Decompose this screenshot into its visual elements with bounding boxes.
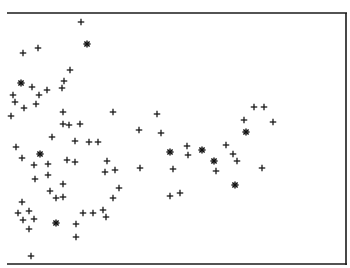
plus-marker-icon xyxy=(154,111,159,116)
asterisk-marker-icon xyxy=(210,157,217,164)
plus-marker-icon xyxy=(170,166,175,171)
asterisk-marker-icon xyxy=(166,148,173,155)
plus-marker-icon xyxy=(53,195,58,200)
data-markers xyxy=(8,19,275,258)
asterisk-marker-icon xyxy=(242,128,249,135)
asterisk-marker-icon xyxy=(231,181,238,188)
plus-marker-icon xyxy=(72,159,77,164)
plus-marker-icon xyxy=(73,234,78,239)
plus-marker-icon xyxy=(230,151,235,156)
plus-marker-icon xyxy=(213,168,218,173)
plus-marker-icon xyxy=(31,162,36,167)
plus-marker-icon xyxy=(95,139,100,144)
plus-marker-icon xyxy=(28,253,33,258)
plus-marker-icon xyxy=(177,190,182,195)
plus-marker-icon xyxy=(20,50,25,55)
plus-marker-icon xyxy=(241,117,246,122)
plus-marker-icon xyxy=(259,165,264,170)
plus-marker-icon xyxy=(26,226,31,231)
plus-marker-icon xyxy=(60,109,65,114)
plus-marker-icon xyxy=(102,169,107,174)
plus-marker-icon xyxy=(60,181,65,186)
scatter-plot xyxy=(0,0,350,268)
plot-frame xyxy=(7,13,347,265)
plus-marker-icon xyxy=(73,221,78,226)
plus-marker-icon xyxy=(64,157,69,162)
plus-marker-icon xyxy=(184,143,189,148)
plus-marker-icon xyxy=(12,99,17,104)
plus-marker-icon xyxy=(78,19,83,24)
plus-marker-icon xyxy=(29,84,34,89)
plus-marker-icon xyxy=(26,208,31,213)
plus-marker-icon xyxy=(45,172,50,177)
plus-marker-icon xyxy=(103,214,108,219)
plus-marker-icon xyxy=(60,194,65,199)
plus-marker-icon xyxy=(86,139,91,144)
plus-marker-icon xyxy=(49,134,54,139)
plus-marker-icon xyxy=(90,210,95,215)
plus-marker-icon xyxy=(20,217,25,222)
plus-marker-icon xyxy=(61,78,66,83)
plus-marker-icon xyxy=(80,210,85,215)
plus-marker-icon xyxy=(72,138,77,143)
plus-marker-icon xyxy=(67,67,72,72)
plus-marker-icon xyxy=(110,109,115,114)
plus-marker-icon xyxy=(158,130,163,135)
plus-marker-icon xyxy=(251,104,256,109)
plus-marker-icon xyxy=(136,127,141,132)
plus-marker-icon xyxy=(59,85,64,90)
plus-marker-icon xyxy=(223,142,228,147)
plus-marker-icon xyxy=(15,210,20,215)
plus-marker-icon xyxy=(19,155,24,160)
plus-marker-icon xyxy=(60,121,65,126)
plus-marker-icon xyxy=(66,122,71,127)
plus-marker-icon xyxy=(234,158,239,163)
plus-marker-icon xyxy=(110,195,115,200)
plus-marker-icon xyxy=(36,92,41,97)
asterisk-marker-icon xyxy=(36,150,43,157)
plus-marker-icon xyxy=(77,121,82,126)
plus-marker-icon xyxy=(261,104,266,109)
plus-marker-icon xyxy=(137,165,142,170)
plus-marker-icon xyxy=(167,193,172,198)
plus-marker-icon xyxy=(270,119,275,124)
plus-marker-icon xyxy=(31,216,36,221)
plus-marker-icon xyxy=(21,105,26,110)
plus-marker-icon xyxy=(100,207,105,212)
plus-marker-icon xyxy=(13,144,18,149)
asterisk-marker-icon xyxy=(83,40,90,47)
asterisk-marker-icon xyxy=(198,146,205,153)
asterisk-marker-icon xyxy=(17,79,24,86)
plus-marker-icon xyxy=(32,176,37,181)
plus-marker-icon xyxy=(185,152,190,157)
plus-marker-icon xyxy=(10,92,15,97)
plus-marker-icon xyxy=(104,158,109,163)
plus-marker-icon xyxy=(33,101,38,106)
plus-marker-icon xyxy=(19,199,24,204)
plus-marker-icon xyxy=(35,45,40,50)
asterisk-marker-icon xyxy=(52,219,59,226)
plus-marker-icon xyxy=(8,113,13,118)
plus-marker-icon xyxy=(116,185,121,190)
plus-marker-icon xyxy=(44,87,49,92)
plus-marker-icon xyxy=(47,188,52,193)
plus-marker-icon xyxy=(112,167,117,172)
plus-marker-icon xyxy=(45,161,50,166)
